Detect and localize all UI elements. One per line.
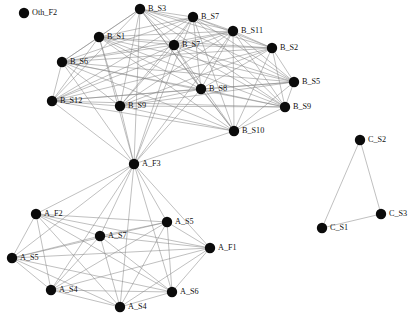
graph-edge bbox=[62, 62, 294, 82]
graph-node-a_s5b[interactable] bbox=[7, 253, 17, 263]
graph-edge bbox=[172, 248, 210, 292]
graph-edge bbox=[62, 62, 134, 164]
graph-edge bbox=[134, 164, 172, 292]
graph-edge bbox=[201, 31, 233, 89]
graph-node-label: C_S2 bbox=[368, 135, 386, 144]
graph-node-label: C_S3 bbox=[389, 209, 407, 218]
graph-node-label: A_S6 bbox=[180, 287, 199, 296]
graph-edge bbox=[167, 222, 172, 292]
graph-node-b_s11[interactable] bbox=[228, 26, 238, 36]
graph-edge bbox=[62, 17, 193, 62]
graph-edge bbox=[51, 236, 100, 290]
graph-edge bbox=[322, 140, 360, 228]
graph-node-b_s7b[interactable] bbox=[169, 40, 179, 50]
graph-node-label: A_F2 bbox=[44, 209, 63, 218]
graph-node-b_s2[interactable] bbox=[267, 43, 277, 53]
graph-node-c_s2[interactable] bbox=[355, 135, 365, 145]
graph-node-label: C_S1 bbox=[330, 223, 348, 232]
graph-node-label: B_S7 bbox=[201, 12, 219, 21]
graph-node-label: A_F3 bbox=[142, 159, 161, 168]
graph-node-a_s7[interactable] bbox=[95, 231, 105, 241]
graph-edge bbox=[36, 164, 134, 214]
graph-node-label: A_S4 bbox=[59, 285, 78, 294]
graph-node-label: B_S2 bbox=[280, 43, 298, 52]
graph-edge bbox=[100, 236, 172, 292]
graph-node-label: B_S8 bbox=[209, 84, 227, 93]
graph-edge bbox=[134, 31, 233, 164]
graph-edge bbox=[134, 164, 167, 222]
graph-node-label: B_S9 bbox=[293, 102, 311, 111]
graph-node-oth_f2[interactable] bbox=[19, 8, 29, 18]
graph-node-label: A_S5 bbox=[20, 253, 39, 262]
graph-edge bbox=[100, 164, 134, 236]
graph-edge bbox=[12, 258, 120, 307]
graph-node-label: B_S11 bbox=[241, 26, 263, 35]
labels-layer: Oth_F2B_S3B_S7B_S11B_S1B_S7B_S2B_S6B_S5B… bbox=[20, 4, 407, 311]
graph-node-a_s6[interactable] bbox=[167, 287, 177, 297]
network-graph-canvas: Oth_F2B_S3B_S7B_S11B_S1B_S7B_S2B_S6B_S5B… bbox=[0, 0, 418, 320]
graph-node-label: B_S12 bbox=[60, 96, 82, 105]
graph-node-c_s3[interactable] bbox=[376, 209, 386, 219]
graph-node-label: B_S6 bbox=[70, 57, 88, 66]
graph-node-b_s7a[interactable] bbox=[188, 12, 198, 22]
graph-edge bbox=[120, 106, 134, 164]
graph-node-label: B_S3 bbox=[148, 4, 166, 13]
graph-edge bbox=[233, 31, 234, 131]
graph-node-label: B_S10 bbox=[242, 126, 264, 135]
graph-node-b_s6[interactable] bbox=[57, 57, 67, 67]
graph-edge bbox=[12, 258, 51, 290]
graph-node-label: Oth_F2 bbox=[32, 8, 57, 17]
graph-edge bbox=[360, 140, 381, 214]
graph-node-b_s9b[interactable] bbox=[280, 102, 290, 112]
graph-node-a_s5a[interactable] bbox=[162, 217, 172, 227]
graph-node-a_f3[interactable] bbox=[129, 159, 139, 169]
graph-edge bbox=[52, 9, 140, 101]
graph-node-b_s1[interactable] bbox=[94, 32, 104, 42]
graph-node-label: B_S5 bbox=[302, 77, 320, 86]
graph-node-b_s9a[interactable] bbox=[115, 101, 125, 111]
graph-node-b_s12[interactable] bbox=[47, 96, 57, 106]
graph-edge bbox=[51, 164, 134, 290]
graph-node-b_s3[interactable] bbox=[135, 4, 145, 14]
graph-edge bbox=[51, 248, 210, 290]
graph-edge bbox=[233, 31, 294, 82]
graph-edge bbox=[12, 214, 36, 258]
graph-node-a_f2[interactable] bbox=[31, 209, 41, 219]
graph-node-label: B_S1 bbox=[107, 32, 125, 41]
graph-svg: Oth_F2B_S3B_S7B_S11B_S1B_S7B_S2B_S6B_S5B… bbox=[0, 0, 418, 320]
graph-node-b_s8[interactable] bbox=[196, 84, 206, 94]
graph-node-label: B_S9 bbox=[128, 101, 146, 110]
graph-node-a_s4b[interactable] bbox=[115, 302, 125, 312]
graph-node-label: A_F1 bbox=[218, 243, 237, 252]
graph-node-a_s4a[interactable] bbox=[46, 285, 56, 295]
edges-layer bbox=[12, 9, 381, 307]
graph-node-label: B_S7 bbox=[182, 40, 200, 49]
graph-node-b_s5[interactable] bbox=[289, 77, 299, 87]
graph-edge bbox=[12, 258, 172, 292]
graph-edge bbox=[120, 248, 210, 307]
graph-edge bbox=[100, 236, 120, 307]
graph-edge bbox=[12, 248, 210, 258]
graph-node-label: A_S4 bbox=[128, 302, 147, 311]
graph-node-a_f1[interactable] bbox=[205, 243, 215, 253]
graph-node-label: A_S5 bbox=[175, 217, 194, 226]
graph-node-c_s1[interactable] bbox=[317, 223, 327, 233]
graph-node-label: A_S7 bbox=[108, 231, 127, 240]
graph-node-b_s10[interactable] bbox=[229, 126, 239, 136]
